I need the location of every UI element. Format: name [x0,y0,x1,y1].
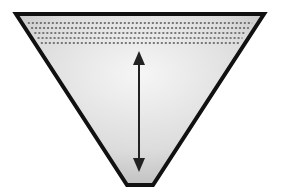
funnel-diagram [0,0,282,193]
